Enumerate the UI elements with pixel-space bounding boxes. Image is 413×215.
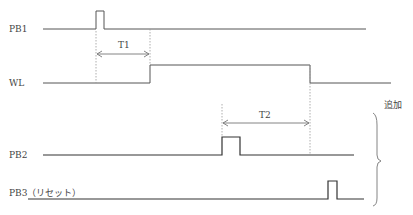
annotation-label: 追加: [384, 100, 402, 110]
t1-arrow: [97, 51, 149, 57]
brace-icon: [373, 113, 381, 206]
signal-label-pb2: PB2: [9, 150, 27, 160]
pb1-waveform: [43, 11, 366, 29]
timing-diagram: [0, 0, 413, 215]
pb2-waveform: [43, 137, 354, 155]
signal-label-pb3: PB3（リセット）: [9, 188, 81, 198]
signal-label-wl: WL: [9, 78, 24, 88]
signal-label-pb1: PB1: [9, 24, 27, 34]
interval-label-t1: T1: [118, 40, 130, 50]
wl-waveform: [43, 65, 391, 83]
t2-arrow: [223, 120, 309, 126]
interval-label-t2: T2: [259, 110, 271, 120]
